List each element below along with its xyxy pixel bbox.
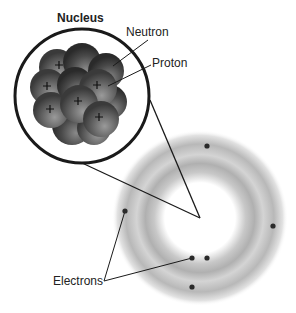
neutron-label: Neutron: [126, 25, 169, 39]
electron: [270, 223, 275, 228]
nucleus-label: Nucleus: [57, 11, 104, 25]
electron: [189, 284, 194, 289]
atom-diagram: Nucleus Neutron Proton Electrons: [0, 0, 296, 313]
electron: [204, 255, 209, 260]
proton-label: Proton: [152, 56, 187, 70]
electron: [122, 208, 127, 213]
diagram-canvas: [0, 0, 296, 313]
electrons-label: Electrons: [53, 274, 103, 288]
electron: [189, 255, 194, 260]
electron: [204, 143, 209, 148]
